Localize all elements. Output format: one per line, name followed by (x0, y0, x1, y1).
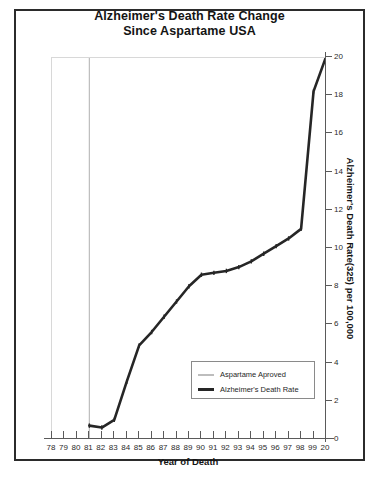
x-axis-tick (250, 431, 251, 439)
y-axis-tick-label: 16 (334, 128, 343, 137)
y-axis-tick-label: 6 (334, 319, 338, 328)
x-axis-tick-label: 83 (109, 443, 118, 452)
x-axis-tick-label: 98 (296, 443, 305, 452)
y-axis-tick (325, 323, 332, 324)
chart-title-line-1: Alzheimer's Death Rate Change (0, 9, 379, 24)
y-axis-tick (325, 247, 332, 248)
y-axis-tick (325, 94, 332, 95)
x-axis-tick (225, 431, 226, 439)
x-axis-tick (138, 431, 139, 439)
y-axis-tick (325, 56, 332, 57)
y-axis-tick (325, 171, 332, 172)
x-axis-title: Year of Death (51, 456, 325, 467)
legend-item-aspartame-approved: Aspartame Aproved (198, 367, 314, 382)
x-axis-tick-label: 82 (96, 443, 105, 452)
y-axis-tick-label: 14 (334, 166, 343, 175)
legend-label-alzheimer-death-rate: Alzheimer's Death Rate (220, 385, 299, 394)
x-axis-tick (288, 431, 289, 439)
x-axis-tick-label: 20 (321, 443, 330, 452)
x-axis-tick-label: 80 (71, 443, 80, 452)
x-axis-tick-label: 93 (233, 443, 242, 452)
y-axis-tick-label: 4 (334, 357, 338, 366)
x-axis-tick-label: 89 (184, 443, 193, 452)
x-axis-tick (51, 431, 52, 439)
x-axis-tick (300, 431, 301, 439)
y-axis-tick (325, 285, 332, 286)
x-axis-tick (313, 431, 314, 439)
y-axis-tick-label: 2 (334, 395, 338, 404)
x-axis-tick-label: 79 (59, 443, 68, 452)
chart-title-line-2: Since Aspartame USA (0, 24, 379, 39)
legend-swatch-alzheimer-death-rate (198, 388, 214, 391)
x-axis-tick-label: 86 (146, 443, 155, 452)
y-axis-tick-label: 0 (334, 434, 338, 443)
y-axis-title-text: Alzheimer's Death Rate(325) per 100,000 (346, 157, 357, 339)
x-axis-tick (213, 431, 214, 439)
y-axis-tick-label: 10 (334, 243, 343, 252)
x-axis-tick (163, 431, 164, 439)
x-axis-tick (200, 431, 201, 439)
x-axis-tick-label: 99 (308, 443, 317, 452)
x-axis-tick (151, 431, 152, 439)
x-axis-tick-label: 94 (246, 443, 255, 452)
y-axis-tick (325, 132, 332, 133)
legend-item-alzheimer-death-rate: Alzheimer's Death Rate (198, 382, 314, 397)
x-axis-tick (76, 431, 77, 439)
x-axis-tick (238, 431, 239, 439)
x-axis-tick (113, 431, 114, 439)
y-axis-tick-label: 18 (334, 90, 343, 99)
x-axis-tick (275, 431, 276, 439)
legend-label-aspartame-approved: Aspartame Aproved (220, 370, 286, 379)
x-axis-tick-label: 87 (159, 443, 168, 452)
y-axis-tick (325, 400, 332, 401)
x-axis-tick-label: 78 (47, 443, 56, 452)
x-axis-tick (101, 431, 102, 439)
x-axis-tick-label: 84 (121, 443, 130, 452)
y-axis-title: Alzheimer's Death Rate(325) per 100,000 (344, 58, 358, 438)
x-axis-tick (176, 431, 177, 439)
x-axis-tick (325, 431, 326, 439)
x-axis-tick-label: 91 (208, 443, 217, 452)
legend-swatch-aspartame-approved (198, 374, 214, 376)
x-axis-tick (126, 431, 127, 439)
y-axis-tick-label: 8 (334, 281, 338, 290)
x-axis-tick-label: 88 (171, 443, 180, 452)
y-axis-tick (325, 209, 332, 210)
x-axis-tick-label: 90 (196, 443, 205, 452)
x-axis-tick-label: 92 (221, 443, 230, 452)
x-axis-tick-label: 81 (84, 443, 93, 452)
chart-legend: Aspartame Aproved Alzheimer's Death Rate (191, 361, 315, 399)
x-axis-tick (188, 431, 189, 439)
x-axis-tick (88, 431, 89, 439)
x-axis-tick-label: 85 (134, 443, 143, 452)
x-axis-tick (263, 431, 264, 439)
x-axis-tick-label: 96 (271, 443, 280, 452)
x-axis-tick-label: 97 (283, 443, 292, 452)
y-axis-tick (325, 362, 332, 363)
x-axis-tick (63, 431, 64, 439)
x-axis-tick-label: 95 (258, 443, 267, 452)
y-axis-tick-label: 20 (334, 52, 343, 61)
chart-title: Alzheimer's Death Rate Change Since Aspa… (0, 9, 379, 39)
y-axis-tick-label: 12 (334, 204, 343, 213)
